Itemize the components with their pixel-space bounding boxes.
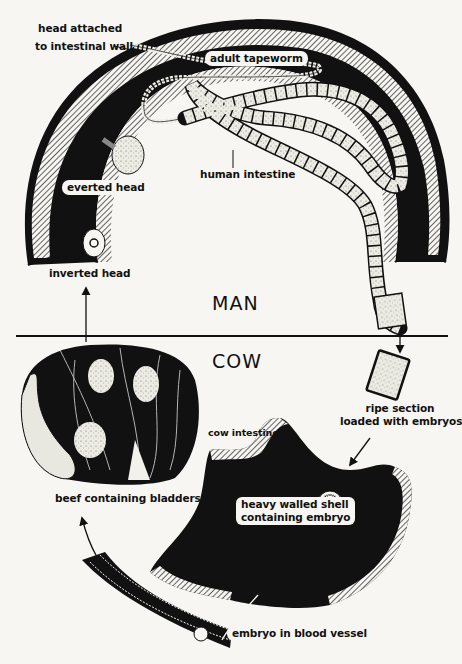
- label-head-attached-line1: head attached: [38, 22, 108, 35]
- label-ripe-section: ripe section loaded with embryos: [340, 402, 460, 428]
- label-head-attached-line2: to intestinal wall: [35, 40, 133, 53]
- label-everted-head: everted head: [62, 180, 150, 195]
- arrow-to-cow-intestine: [350, 438, 370, 465]
- label-heavy-walled-shell: heavy walled shell containing embryo: [236, 497, 355, 525]
- inverted-head-illustration: [83, 229, 105, 257]
- section-label-cow: COW: [212, 355, 262, 368]
- arrow-to-beef: [82, 518, 97, 557]
- label-head-attached: head attached: [38, 22, 108, 35]
- label-heavy-walled-shell-line2: containing embryo: [241, 511, 350, 524]
- label-heavy-walled-shell-line1: heavy walled shell: [241, 498, 350, 511]
- label-ripe-section-line2: loaded with embryos: [340, 415, 460, 428]
- ripe-section-illustration: [366, 350, 409, 400]
- tapeworm-lifecycle-diagram: [0, 0, 462, 664]
- label-inverted-head: inverted head: [44, 266, 135, 281]
- label-beef-containing-bladders: beef containing bladders: [55, 492, 201, 505]
- beef-with-bladders-illustration: [21, 344, 199, 484]
- label-ripe-section-line1: ripe section: [340, 402, 460, 415]
- label-embryo-in-blood-vessel: embryo in blood vessel: [227, 626, 372, 641]
- label-adult-tapeworm: adult tapeworm: [205, 51, 308, 66]
- section-label-man: MAN: [212, 297, 259, 310]
- label-human-intestine: human intestine: [200, 168, 295, 181]
- label-cow-intestine: cow intestine: [208, 426, 279, 439]
